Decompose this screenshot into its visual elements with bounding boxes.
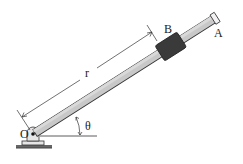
label-r: r (85, 66, 89, 80)
rotating-bar (30, 9, 222, 140)
angle-theta-arc (76, 117, 82, 135)
label-b: B (164, 22, 172, 36)
label-theta: θ (85, 119, 91, 133)
label-o: O (20, 127, 29, 141)
rod-collar-diagram: O B A r θ (0, 0, 243, 164)
pivot-pin (31, 132, 35, 136)
label-a: A (214, 26, 223, 40)
